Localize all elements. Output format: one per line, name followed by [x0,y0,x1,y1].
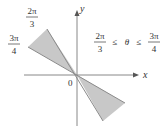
svg-text:2π: 2π [27,6,37,16]
y-axis-arrow-icon [75,10,80,16]
x-axis-arrow-icon [133,73,139,78]
x-axis-label: x [142,69,148,80]
svg-text:3π: 3π [9,33,19,43]
svg-text:3π: 3π [149,31,159,41]
svg-text:4: 4 [152,44,157,54]
svg-text:3: 3 [30,19,35,29]
angle-label-2pi-over-3: 2π 3 [26,6,38,29]
svg-text:2π: 2π [95,31,105,41]
svg-text:4: 4 [12,46,17,56]
origin-label: 0 [68,78,73,88]
inequality-label: 2π 3 ≤ θ ≤ 3π 4 [94,31,160,54]
y-axis-label: y [79,3,85,14]
shaded-region-upper [28,29,77,75]
shaded-region-lower [77,75,125,121]
polar-region-diagram: x y 0 2π 3 3π 4 2π 3 ≤ θ ≤ 3π 4 [0,0,167,135]
svg-text:3: 3 [98,44,103,54]
angle-label-3pi-over-4: 3π 4 [8,33,20,56]
svg-text:≤: ≤ [137,37,142,47]
svg-text:θ: θ [125,37,130,47]
svg-text:≤: ≤ [113,37,118,47]
